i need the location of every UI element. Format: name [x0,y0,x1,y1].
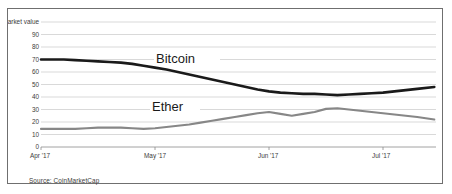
x-axis-tick-labels: Apr '17 May '17 Jun '17 Jul '17 [30,152,391,160]
y-axis-tick-labels: 100% share of market value 90 80 70 60 5… [8,18,39,150]
ytick-label-20: 20 [32,118,40,125]
ytick-label-40: 40 [32,93,40,100]
gridlines [41,22,436,135]
source-note: Source: CoinMarketCap [29,177,99,184]
axis-baseline [41,147,436,150]
series-annotation-ether: Ether [152,99,184,114]
ytick-label-80: 80 [32,43,40,50]
ytick-label-60: 60 [32,68,40,75]
ytick-label-30: 30 [32,106,40,113]
xtick-label-apr: Apr '17 [30,152,50,160]
series-lines [41,60,434,129]
ytick-label-0: 0 [35,143,39,150]
ytick-label-90: 90 [32,31,40,38]
chart-figure: 100% share of market value 90 80 70 60 5… [0,0,452,194]
ytick-label-70: 70 [32,56,40,63]
ytick-label-10: 10 [32,131,40,138]
line-series-bitcoin [41,60,434,96]
ytick-label-100: 100% share of market value [8,18,39,25]
series-annotations: Bitcoin Ether [150,50,220,114]
chart-plot-area: 100% share of market value 90 80 70 60 5… [8,9,444,185]
series-annotation-bitcoin: Bitcoin [156,51,195,66]
ytick-label-50: 50 [32,81,40,88]
chart-frame: 100% share of market value 90 80 70 60 5… [7,8,443,184]
xtick-label-may: May '17 [144,152,167,160]
xtick-label-jul: Jul '17 [372,152,391,159]
line-series-ether [41,108,434,129]
xtick-label-jun: Jun '17 [258,152,279,159]
